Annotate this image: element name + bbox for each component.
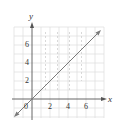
x-tick-4: 4: [66, 102, 70, 111]
chart-canvas: y x 0 2 4 6 6 4 2: [0, 0, 117, 131]
y-axis-arrow-icon: [30, 22, 34, 28]
y-axis-label: y: [28, 11, 33, 21]
x-tick-6: 6: [84, 102, 88, 111]
x-axis: [12, 97, 107, 101]
origin-label: 0: [24, 102, 28, 111]
y-tick-6: 6: [25, 40, 29, 49]
y-tick-2: 2: [25, 76, 29, 85]
y-axis: [30, 22, 34, 120]
x-tick-2: 2: [48, 102, 52, 111]
x-axis-label: x: [107, 94, 112, 104]
y-tick-4: 4: [25, 58, 29, 67]
